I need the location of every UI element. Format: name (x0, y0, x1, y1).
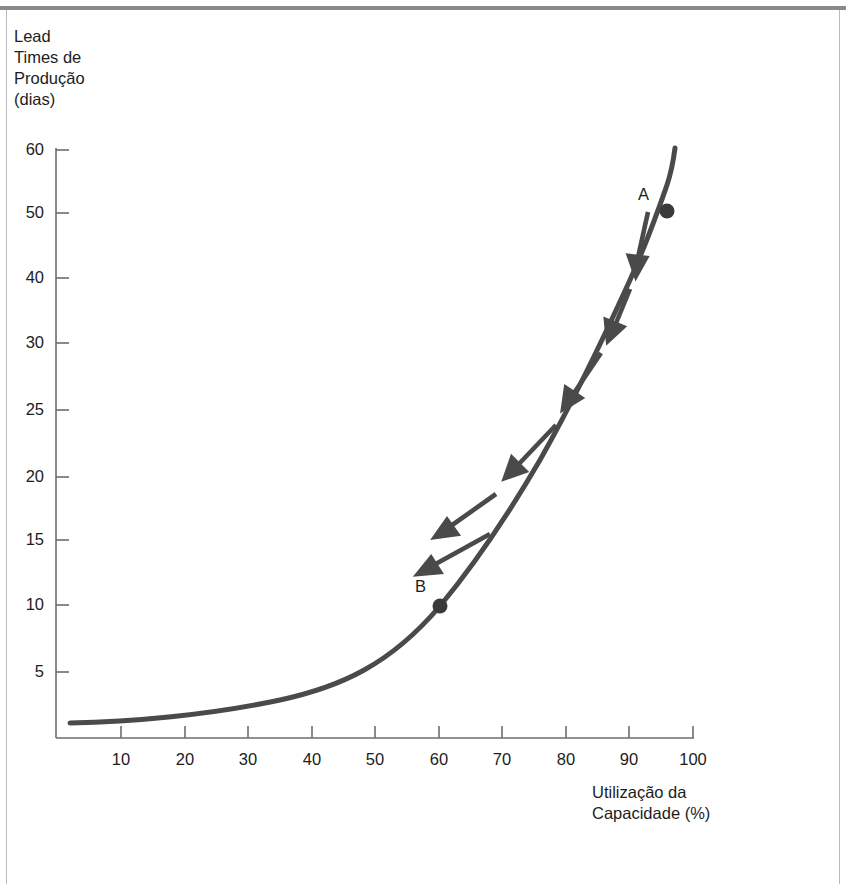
point-a-marker (660, 204, 675, 219)
y-tick-label-25: 25 (4, 400, 44, 419)
y-tick-label-50: 50 (4, 203, 44, 222)
y-tick-label-20: 20 (4, 467, 44, 486)
x-axis-ticks (121, 726, 693, 738)
x-axis-title: Utilização da Capacidade (%) (592, 782, 710, 824)
x-tick-label-100: 100 (673, 750, 713, 769)
y-tick-label-10: 10 (4, 595, 44, 614)
y-tick-label-15: 15 (4, 530, 44, 549)
arrow-segment-4 (505, 425, 556, 478)
arrow-segment-2 (606, 289, 630, 341)
arrow-segment-3 (563, 353, 601, 409)
x-tick-label-50: 50 (355, 750, 395, 769)
arrow-segment-5 (435, 494, 496, 537)
x-tick-label-20: 20 (165, 750, 205, 769)
point-b-marker (433, 599, 448, 614)
x-tick-label-60: 60 (419, 750, 459, 769)
y-tick-label-30: 30 (4, 333, 44, 352)
y-tick-label-60: 60 (4, 140, 44, 159)
figure-page: Lead Times de Produção (dias) Utilização… (0, 0, 846, 884)
y-axis-title: Lead Times de Produção (dias) (14, 26, 85, 110)
x-tick-label-30: 30 (228, 750, 268, 769)
y-axis-ticks (56, 150, 69, 672)
lead-time-curve (70, 148, 675, 723)
y-tick-label-40: 40 (4, 268, 44, 287)
x-tick-label-80: 80 (546, 750, 586, 769)
improvement-arrow (418, 212, 648, 574)
x-tick-label-10: 10 (101, 750, 141, 769)
x-tick-label-70: 70 (482, 750, 522, 769)
point-b-label: B (415, 577, 426, 596)
y-tick-label-5: 5 (4, 662, 44, 681)
x-tick-label-40: 40 (292, 750, 332, 769)
point-a-label: A (638, 185, 649, 204)
x-tick-label-90: 90 (609, 750, 649, 769)
